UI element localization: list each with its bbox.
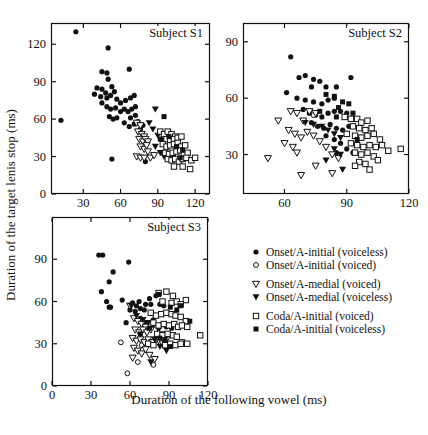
data-point-square-open <box>173 342 178 347</box>
data-point-circle-filled <box>99 87 104 92</box>
data-point-circle-filled <box>128 115 133 120</box>
data-point-square-filled <box>340 99 345 104</box>
triangle-open-glyph <box>250 278 262 290</box>
data-point-triangle-open <box>293 150 300 156</box>
data-point-triangle-open <box>281 141 288 147</box>
data-point-circle-filled <box>332 137 337 142</box>
y-axis-label: Duration of the target lenis stop (ms) <box>3 35 21 375</box>
data-point-square-open <box>342 114 347 119</box>
data-point-triangle-open <box>293 110 300 116</box>
x-axis-label: Duration of the following vowel (ms) <box>98 392 360 408</box>
data-point-square-open <box>161 321 166 326</box>
data-point-square-open <box>160 299 165 304</box>
data-point-square-filled <box>158 137 163 142</box>
data-point-triangle-open <box>144 149 151 155</box>
data-point-square-open <box>363 127 368 132</box>
x-tick-label: 30 <box>77 196 90 210</box>
data-point-square-filled <box>156 292 161 297</box>
data-point-circle-filled <box>58 118 63 123</box>
data-point-square-filled <box>163 337 168 342</box>
data-point-square-open <box>363 161 368 166</box>
data-point-circle-open <box>119 340 124 345</box>
data-point-square-open <box>164 289 169 294</box>
x-tick-label: 60 <box>278 196 291 210</box>
data-point-circle-filled <box>142 307 147 312</box>
data-point-square-open <box>352 150 357 155</box>
data-point-circle-filled <box>334 126 339 131</box>
data-point-square-filled <box>157 336 162 341</box>
data-point-circle-filled <box>126 259 131 264</box>
data-point-circle-filled <box>118 100 123 105</box>
data-point-circle-filled <box>120 297 125 302</box>
data-point-square-open <box>365 118 370 123</box>
data-point-triangle-open <box>323 144 330 150</box>
data-point-square-open <box>173 313 178 318</box>
data-point-square-open <box>171 164 176 169</box>
data-point-square-open <box>156 323 161 328</box>
data-point-circle-filled <box>325 111 330 116</box>
data-point-circle-filled <box>109 156 114 161</box>
x-tick-label: 60 <box>114 196 127 210</box>
data-point-square-open <box>159 311 164 316</box>
data-point-circle-filled <box>317 79 322 84</box>
data-point-square-open <box>179 134 184 139</box>
data-point-square-open <box>352 163 357 168</box>
data-point-triangle-open <box>285 127 292 133</box>
x-tick-label: 120 <box>186 196 205 210</box>
data-point-circle-filled <box>348 75 353 80</box>
data-point-circle-open <box>135 360 140 365</box>
y-tick-label: 0 <box>41 379 47 393</box>
triangle-filled-glyph <box>250 291 262 303</box>
square-filled-glyph <box>250 323 262 335</box>
data-point-triangle-open <box>291 131 298 137</box>
plot-title-s2: Subject S2 <box>347 26 403 41</box>
data-point-square-open <box>379 142 384 147</box>
data-point-square-open <box>185 341 190 346</box>
data-point-square-open <box>373 144 378 149</box>
data-point-square-open <box>178 341 183 346</box>
data-point-circle-filled <box>106 45 111 50</box>
y-tick-label: 90 <box>35 252 48 266</box>
data-point-square-open <box>178 314 183 319</box>
y-tick-label: 30 <box>226 148 239 162</box>
data-point-circle-filled <box>92 92 97 97</box>
legend-item: Onset/A-initial (voiceless) <box>250 246 392 259</box>
legend-item-label: Onset/A-initial (voiceless) <box>266 246 388 258</box>
data-point-circle-filled <box>104 95 109 100</box>
data-point-circle-filled <box>309 84 314 89</box>
data-point-circle-filled <box>334 84 339 89</box>
plot-title-s3: Subject S3 <box>146 220 202 235</box>
data-point-square-open <box>365 150 370 155</box>
data-point-triangle-open <box>298 135 305 141</box>
data-point-circle-filled <box>148 302 153 307</box>
data-point-square-open <box>359 120 364 125</box>
data-point-square-open <box>180 164 185 169</box>
data-point-triangle-filled <box>152 106 159 112</box>
data-point-square-open <box>348 141 353 146</box>
data-point-circle-filled <box>323 84 328 89</box>
data-point-square-open <box>174 334 179 339</box>
data-point-square-open <box>164 310 169 315</box>
data-point-circle-filled <box>311 99 316 104</box>
x-tick-label: 30 <box>85 388 98 402</box>
data-point-triangle-filled <box>339 167 346 173</box>
y-tick-label: 90 <box>34 75 47 89</box>
data-point-square-open <box>183 297 188 302</box>
data-point-circle-filled <box>109 84 114 89</box>
filled-square-icon <box>250 323 266 335</box>
data-point-square-filled <box>254 326 259 331</box>
data-point-square-open <box>371 131 376 136</box>
data-point-circle-filled <box>132 93 137 98</box>
y-tick-label: 60 <box>34 112 47 126</box>
data-point-square-open <box>153 313 158 318</box>
plot-canvas-s3: 03060901200306090 <box>52 217 208 386</box>
square-open-glyph <box>250 310 262 322</box>
data-point-square-open <box>377 137 382 142</box>
data-point-square-filled <box>180 148 185 153</box>
data-point-circle-filled <box>122 120 127 125</box>
data-point-triangle-open <box>264 156 271 162</box>
data-point-square-open <box>146 341 151 346</box>
data-point-square-open <box>375 157 380 162</box>
legend-item-label: Coda/A-initial (voiced) <box>266 310 374 322</box>
data-point-square-filled <box>324 92 329 97</box>
